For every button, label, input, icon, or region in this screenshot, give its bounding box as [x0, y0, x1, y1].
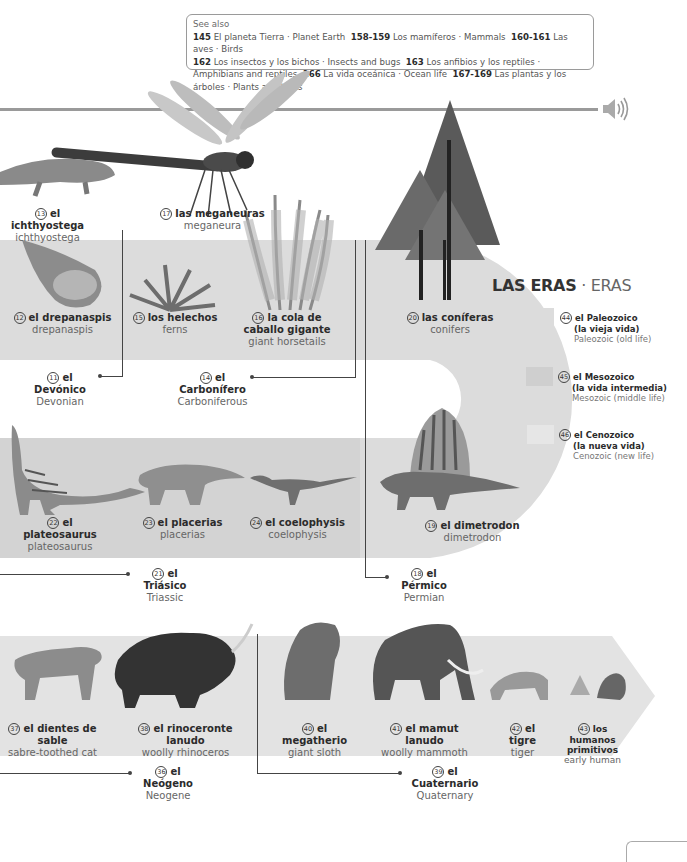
- permian-connector: [365, 240, 366, 577]
- devonian-connector: [122, 230, 123, 376]
- legend-mesozoic: 45el Mesozoico (la vida intermedia) Meso…: [558, 371, 667, 403]
- label-plateosaurus: 22el plateosaurus plateosaurus: [10, 517, 110, 553]
- conifers-illustration: [375, 100, 500, 300]
- label-dimetrodon: 19el dimetrodon dimetrodon: [425, 520, 520, 544]
- carboniferous-connector-h: [252, 377, 355, 378]
- devonian-connector-h: [100, 376, 123, 377]
- label-giant-sloth: 40el megatherio giant sloth: [272, 723, 357, 759]
- woolly-mammoth-illustration: [373, 624, 483, 700]
- legend-cenozoic: 46el Cenozoico (la nueva vida) Cenozoic …: [559, 429, 654, 461]
- carboniferous-connector: [355, 240, 356, 378]
- drepanaspis-illustration: [22, 240, 101, 308]
- woolly-rhinoceros-illustration: [115, 624, 252, 708]
- label-carboniferous: 14el Carbonífero Carboniferous: [170, 372, 255, 408]
- meganeura-illustration: [51, 65, 314, 217]
- label-conifers: 20las coníferas conifers: [405, 312, 495, 336]
- dimetrodon-illustration: [380, 408, 520, 510]
- cenozoic-swatch: [527, 425, 554, 444]
- label-tiger: 42el tigre tiger: [495, 723, 550, 759]
- label-triassic: 21el Triásico Triassic: [130, 568, 200, 604]
- tiger-illustration: [490, 672, 548, 700]
- label-drepanaspis: 12el drepanaspis drepanaspis: [10, 312, 115, 336]
- label-early-human: 43los humanos primitivos early human: [555, 723, 630, 765]
- label-sabre-toothed-cat: 37el dientes de sable sabre-toothed cat: [0, 723, 105, 759]
- mesozoic-swatch: [526, 367, 553, 386]
- label-woolly-mammoth: 41el mamut lanudo woolly mammoth: [372, 723, 477, 759]
- permian-connector-h: [365, 577, 387, 578]
- label-woolly-rhinoceros: 38el rinoceronte lanudo woolly rhinocero…: [118, 723, 253, 759]
- label-quaternary: 39el Cuaternario Quaternary: [400, 766, 490, 802]
- plateosaurus-illustration: [12, 425, 145, 515]
- triassic-connector: [0, 574, 128, 575]
- ichthyostega-illustration: [0, 159, 115, 196]
- page-tab: [626, 841, 687, 862]
- label-ichthyostega: 13el ichthyostega ichthyostega: [0, 208, 95, 244]
- legend-paleozoic: 44el Paleozoico (la vieja vida) Paleozoi…: [560, 312, 651, 344]
- sabre-toothed-cat-illustration: [14, 647, 101, 700]
- label-ferns: 15los helechos ferns: [130, 312, 220, 336]
- eras-legend-title: LAS ERAS · ERAS: [492, 276, 631, 295]
- giant-sloth-illustration: [284, 622, 340, 700]
- early-human-illustration: [570, 673, 626, 700]
- neogene-connector: [0, 773, 130, 774]
- ferns-illustration: [130, 265, 215, 310]
- paleozoic-swatch: [527, 308, 554, 327]
- placerias-illustration: [139, 464, 245, 505]
- quaternary-connector-h: [257, 773, 400, 774]
- label-devonian: 11el Devónico Devonian: [20, 372, 100, 408]
- label-giant-horsetails: 16la cola de caballo gigante giant horse…: [232, 312, 342, 348]
- label-coelophysis: 24el coelophysis coelophysis: [250, 517, 345, 541]
- label-placerias: 23el placerias placerias: [140, 517, 225, 541]
- label-meganeura: 17las meganeuras meganeura: [160, 208, 265, 232]
- coelophysis-illustration: [250, 475, 357, 505]
- quaternary-connector: [257, 634, 258, 774]
- label-neogene: 36el Neógeno Neogene: [132, 766, 204, 802]
- label-permian: 18el Pérmico Permian: [388, 568, 460, 604]
